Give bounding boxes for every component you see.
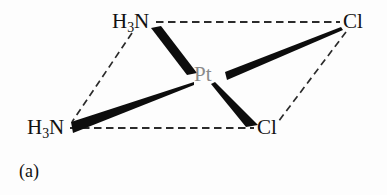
atom-label-chlorine-top-symbol: Cl (343, 9, 363, 33)
atom-label-chlorine-bottom: Cl (257, 117, 277, 138)
wedge-bond-pt-to-cl-bottom (211, 82, 258, 127)
wedge-bond-n-bottom-to-pt (71, 82, 194, 133)
wedge-bond-n-top-to-pt (151, 26, 197, 75)
atom-label-chlorine-bottom-symbol: Cl (257, 115, 277, 139)
atom-label-nitrogen-top-h: H (112, 9, 127, 33)
atom-label-nitrogen-bottom-n: N (49, 115, 64, 139)
atom-label-nitrogen-bottom: H3N (27, 117, 64, 138)
bond-network-svg (0, 0, 387, 195)
dashed-bond-cl-top-to-cl-bottom (278, 32, 346, 122)
figure-caption: (a) (19, 162, 39, 180)
atom-label-platinum-center: Pt (194, 64, 212, 85)
atom-label-chlorine-top: Cl (343, 11, 363, 32)
atom-label-nitrogen-top-n: N (134, 9, 149, 33)
atom-label-nitrogen-top: H3N (112, 11, 149, 32)
atom-label-nitrogen-top-subscript: 3 (127, 20, 134, 35)
atom-label-nitrogen-bottom-h: H (27, 115, 42, 139)
wedge-bond-cl-top-to-pt (225, 27, 343, 80)
atom-label-nitrogen-bottom-subscript: 3 (42, 126, 49, 141)
molecular-structure-figure: H3N Cl H3N Cl Pt (a) (0, 0, 387, 195)
